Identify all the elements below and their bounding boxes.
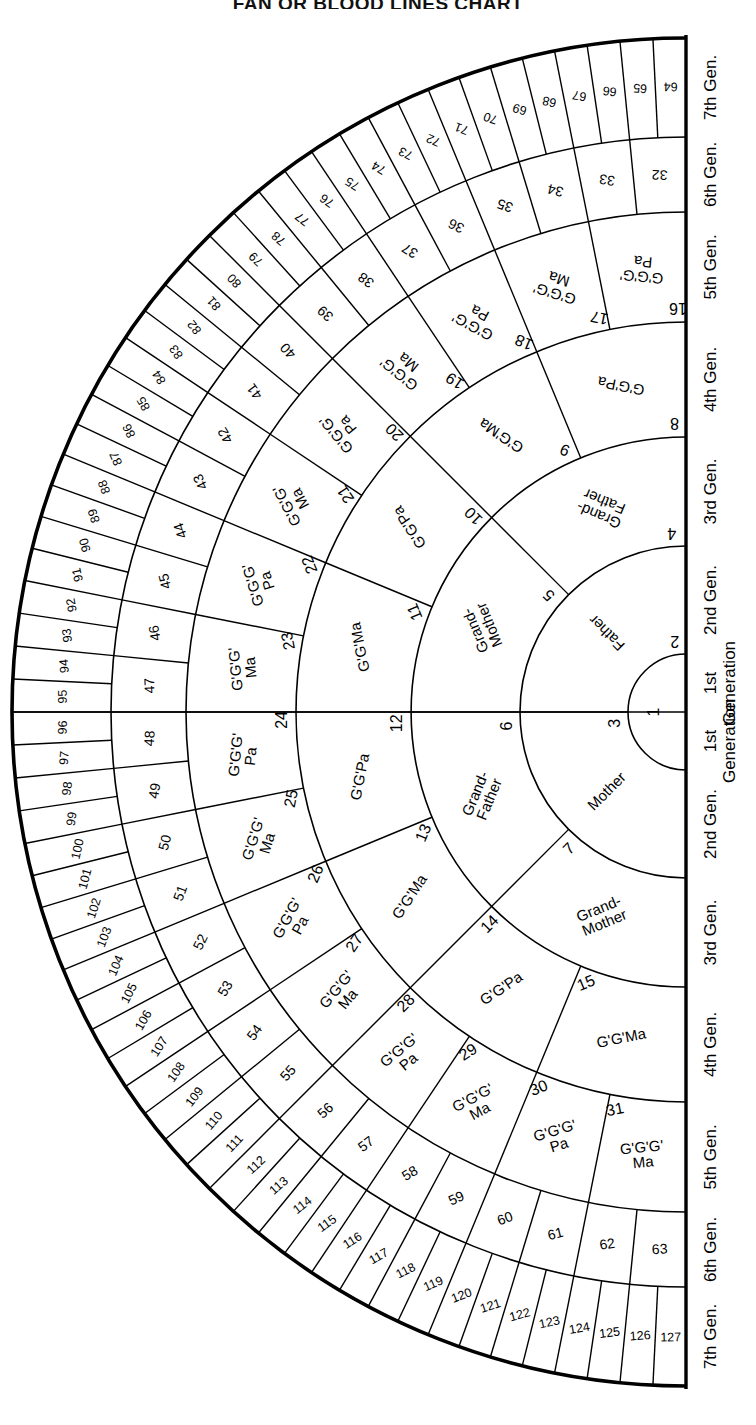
cell-number-54: 54: [243, 1021, 265, 1043]
cell-number-61: 61: [546, 1224, 565, 1243]
cell-number-26: 26: [304, 862, 327, 885]
svg-text:1: 1: [645, 707, 662, 716]
svg-text:96: 96: [56, 720, 70, 734]
svg-text:Father: Father: [585, 612, 628, 655]
cell-divider: [15, 768, 114, 778]
cell-number-108: 108: [165, 1060, 188, 1085]
svg-text:78: 78: [269, 228, 289, 248]
cell-number-18: 18: [512, 331, 535, 354]
cell-label-gen3-5: Grand-Mother: [458, 600, 505, 655]
cell-label-gen5-19: G'G'G'Ma: [376, 342, 430, 394]
svg-text:7th Gen.: 7th Gen.: [701, 1304, 720, 1369]
svg-text:G'G'Ma: G'G'Ma: [346, 620, 373, 673]
svg-text:23: 23: [278, 631, 298, 652]
cell-number-100: 100: [69, 837, 87, 860]
cell-number-118: 118: [394, 1260, 418, 1281]
cell-divider: [155, 903, 224, 932]
svg-text:Pa: Pa: [632, 253, 653, 272]
svg-text:1st: 1st: [701, 671, 720, 694]
cell-divider: [574, 1202, 589, 1276]
cell-number-28: 28: [393, 990, 418, 1015]
cell-divider: [114, 761, 189, 768]
svg-text:112: 112: [244, 1153, 268, 1177]
svg-text:107: 107: [148, 1034, 171, 1059]
svg-text:41: 41: [243, 381, 265, 403]
cell-number-122: 122: [508, 1305, 532, 1324]
cell-divider: [233, 1138, 299, 1211]
svg-text:108: 108: [165, 1060, 188, 1085]
cell-number-53: 53: [214, 977, 236, 999]
svg-text:2: 2: [670, 633, 679, 650]
cell-number-113: 113: [267, 1174, 291, 1198]
cell-number-27: 27: [342, 931, 366, 955]
svg-text:75: 75: [343, 174, 362, 193]
cell-divider: [15, 646, 114, 656]
cell-number-127: 127: [660, 1330, 681, 1345]
cell-number-14: 14: [477, 911, 502, 936]
cell-number-124: 124: [568, 1320, 591, 1337]
generation-axis-label-top-2: 2nd Gen.: [701, 565, 720, 635]
generation-axis-label-bottom-2: 2nd Gen.: [701, 789, 720, 859]
cell-label-gen4-11: G'G'Ma: [346, 620, 373, 673]
svg-text:4th Gen.: 4th Gen.: [701, 347, 720, 412]
cell-number-36: 36: [446, 215, 467, 236]
cell-divider: [410, 906, 491, 987]
svg-text:111: 111: [223, 1132, 246, 1155]
cell-number-19: 19: [443, 369, 467, 393]
cell-number-50: 50: [155, 833, 174, 852]
cell-divider: [492, 829, 569, 906]
cell-label-gen4-13: G'G'Ma: [388, 870, 430, 921]
svg-text:68: 68: [541, 93, 558, 110]
cell-number-2: 2: [670, 633, 679, 650]
svg-text:121: 121: [478, 1296, 502, 1316]
cell-number-75: 75: [343, 174, 362, 193]
svg-text:84: 84: [150, 368, 169, 387]
cell-label-gen5-24: G'G'G'Pa: [225, 732, 261, 779]
svg-text:71: 71: [453, 119, 471, 137]
cell-number-69: 69: [511, 101, 528, 118]
svg-text:21: 21: [333, 482, 357, 506]
svg-text:G'G'Ma: G'G'Ma: [475, 415, 526, 457]
cell-divider: [19, 796, 117, 811]
cell-divider: [187, 1098, 260, 1164]
svg-text:50: 50: [155, 833, 174, 852]
generation-axis-label-top-6: 6th Gen.: [701, 142, 720, 207]
cell-number-103: 103: [94, 925, 115, 950]
svg-text:98: 98: [59, 781, 75, 797]
svg-text:G'G'Pa: G'G'Pa: [346, 751, 372, 801]
svg-text:125: 125: [598, 1325, 620, 1341]
cell-divider: [519, 1190, 541, 1262]
cell-label-gen5-20: G'G'G'Pa: [315, 403, 367, 457]
generation-axis-label-bottom-5: 5th Gen.: [701, 1124, 720, 1189]
svg-text:63: 63: [651, 1240, 668, 1257]
cell-label-gen5-29: G'G'G'Ma: [449, 1080, 503, 1129]
svg-text:17: 17: [589, 308, 610, 328]
cell-number-34: 34: [546, 181, 565, 200]
svg-text:55: 55: [277, 1062, 299, 1084]
cell-divider: [13, 679, 112, 684]
svg-text:7th Gen.: 7th Gen.: [701, 55, 720, 120]
svg-text:G'G'Ma: G'G'Ma: [595, 1024, 648, 1051]
cell-divider: [208, 393, 270, 435]
cell-number-96: 96: [56, 720, 70, 734]
svg-text:122: 122: [508, 1305, 532, 1324]
cell-divider: [620, 41, 630, 140]
cell-divider: [258, 1156, 321, 1233]
cell-number-101: 101: [76, 867, 95, 891]
cell-divider: [519, 162, 541, 234]
cell-number-73: 73: [396, 144, 415, 163]
svg-text:24: 24: [273, 711, 290, 729]
cell-divider: [19, 613, 117, 628]
cell-number-107: 107: [148, 1034, 171, 1059]
cell-number-30: 30: [527, 1076, 550, 1099]
cell-divider: [165, 284, 242, 347]
cell-number-90: 90: [76, 537, 93, 554]
svg-text:G'G'Pa: G'G'Pa: [477, 967, 526, 1008]
cell-number-55: 55: [277, 1062, 299, 1084]
svg-text:52: 52: [190, 931, 211, 952]
cell-number-9: 9: [557, 440, 572, 459]
svg-text:16: 16: [669, 300, 687, 317]
svg-text:53: 53: [214, 977, 236, 999]
svg-text:29: 29: [456, 1040, 480, 1064]
cell-number-99: 99: [64, 811, 80, 827]
